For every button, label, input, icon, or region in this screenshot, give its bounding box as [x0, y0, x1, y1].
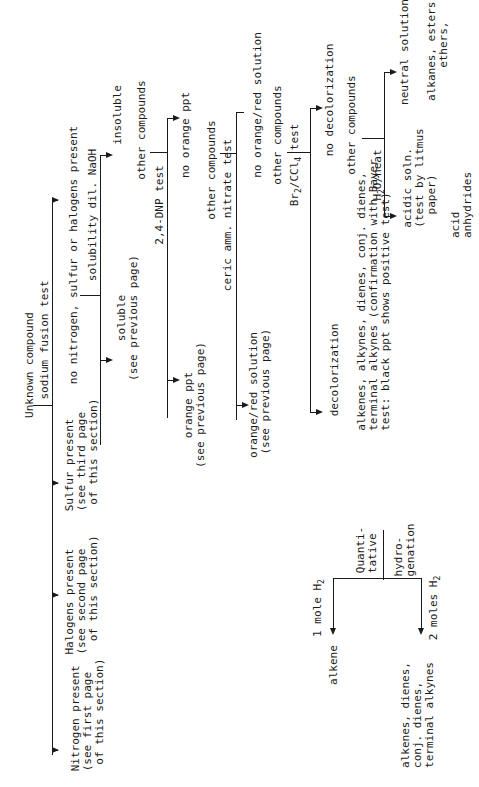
- connector: [383, 530, 384, 580]
- arrow-icon: [390, 69, 397, 75]
- connector: [236, 112, 244, 113]
- node-acidic: acidic soln. (test by litmus paper): [402, 128, 438, 227]
- node-no-decol: no decolorization: [324, 44, 336, 157]
- connector: [333, 578, 334, 630]
- node-neutral: neutral solution: [399, 0, 411, 105]
- node-sodium-fusion: sodium fusion test: [39, 280, 51, 399]
- arrow-icon: [316, 409, 323, 415]
- arrow-icon: [52, 197, 59, 203]
- node-orange-red: orange/red solution (see previous page): [248, 329, 272, 461]
- arrow-icon: [418, 628, 424, 635]
- arrow-icon: [173, 377, 180, 383]
- arrow-icon: [330, 628, 336, 635]
- node-no-orange-ppt: no orange ppt: [180, 92, 192, 178]
- node-two-moles: 2 moles H2: [428, 576, 444, 640]
- node-decol: decolorization: [329, 324, 341, 417]
- node-insoluble: insoluble: [112, 85, 124, 145]
- arrow-icon: [106, 152, 113, 158]
- node-unknown: Unknown compound: [24, 312, 36, 418]
- node-other-1: other compounds: [136, 80, 148, 179]
- node-ceric: ceric amm. nitrate test: [222, 139, 234, 291]
- arrow-icon: [52, 480, 59, 486]
- connector: [310, 108, 311, 413]
- node-quant: Quanti- tative: [355, 527, 379, 573]
- node-anhydrides: acid anhydrides: [450, 172, 474, 238]
- node-other-2: other compounds: [206, 120, 218, 219]
- trunk-line: [52, 200, 53, 755]
- connector: [167, 118, 168, 418]
- arrow-icon: [106, 357, 113, 363]
- node-alkene: alkene: [328, 645, 340, 685]
- node-orange-ppt: orange ppt (see previous page): [183, 342, 207, 468]
- connector: [362, 138, 384, 139]
- node-halogens: Halogens present (see second page of thi…: [64, 535, 100, 654]
- arrow-icon: [316, 105, 323, 111]
- node-one-mole: 1 mole H2: [312, 579, 328, 637]
- node-br2: Br2/CCl4 test: [289, 124, 305, 207]
- connector: [150, 152, 167, 153]
- node-nitrogen: Nitrogen present (see first page of this…: [70, 659, 106, 772]
- node-solubility: solubility dil. NaOH: [87, 149, 99, 281]
- node-no-nsx: no nitrogen, sulfur or halogens present: [68, 126, 80, 384]
- connector: [236, 112, 237, 420]
- connector: [421, 578, 422, 630]
- connector: [100, 155, 101, 445]
- node-alkanes: alkanes, esters, ethers,: [426, 0, 450, 101]
- node-soluble: soluble (see previous page): [116, 255, 140, 381]
- node-dnp: 2,4-DNP test: [154, 165, 166, 244]
- node-other-3: other compounds: [272, 85, 284, 184]
- node-unsaturated: alkenes, alkynes, dienes, conj. dienes, …: [356, 159, 392, 431]
- node-multi: alkenes, dienes, conj. dienes, terminal …: [400, 662, 436, 768]
- node-hydro: hydro- genation: [393, 524, 417, 577]
- connector: [333, 578, 421, 579]
- arrow-icon: [52, 592, 59, 598]
- connector: [80, 295, 100, 296]
- arrow-icon: [52, 747, 59, 753]
- node-no-orange-red: no orange/red solution: [252, 32, 264, 178]
- node-sulfur: Sulfur present (see third page of this s…: [64, 399, 100, 512]
